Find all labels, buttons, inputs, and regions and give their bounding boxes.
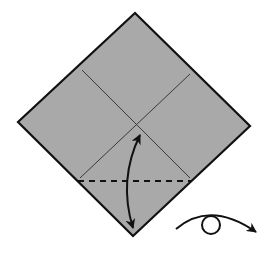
origami-diagram [0,0,276,253]
paper-square [18,13,250,236]
turn-over-icon [176,215,256,234]
